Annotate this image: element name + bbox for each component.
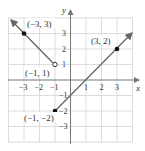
y-tick: 3 [62,29,66,38]
point-marker [115,47,120,52]
y-axis-label: y [61,5,66,15]
y-tick: −1 [59,91,68,100]
point-marker [22,31,27,36]
graph: x y −3 −2 −1 1 2 3 3 2 1 −1 −2 −3 (−3, 3… [0,0,145,151]
x-axis-label: x [135,83,140,93]
point-label: (3, 2) [91,36,111,46]
x-tick: 3 [115,83,119,92]
point-label: (−1, 1) [25,68,50,78]
x-tick: −1 [50,83,59,92]
x-tick: −3 [19,83,28,92]
y-tick: −3 [59,122,68,131]
point-label: (−3, 3) [27,19,52,29]
x-tick: 1 [84,83,88,92]
x-tick: −2 [35,83,44,92]
point-label: (−1, −2) [24,113,54,123]
open-point-marker [53,62,57,66]
y-tick: 1 [62,60,66,69]
x-tick: 2 [100,83,104,92]
y-tick: −2 [59,107,68,116]
y-tick: 2 [62,45,66,54]
